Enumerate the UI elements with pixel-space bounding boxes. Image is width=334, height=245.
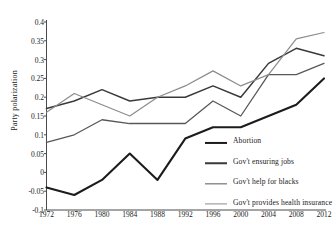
party-polarization-chart: Party polarization 0.40.350.30.250.20.15… [0,0,334,245]
series-line [47,63,325,142]
legend-swatch-govt-provides-health-insurance [205,200,227,209]
legend-label-govt-help-for-blacks: Gov't help for blacks [233,177,299,187]
legend-swatch-govt-help-for-blacks [205,179,227,188]
legend-item-govt-provides-health-insurance: Gov't provides health insurance [205,198,333,209]
legend-swatch-govt-ensuring-jobs [205,159,227,168]
legend-swatch-abortion [205,138,227,147]
legend-item-govt-help-for-blacks: Gov't help for blacks [205,177,333,188]
legend-label-govt-ensuring-jobs: Gov't ensuring jobs [233,157,294,167]
legend-label-abortion: Abortion [233,136,261,146]
legend-item-abortion: Abortion [205,136,333,147]
legend-item-govt-ensuring-jobs: Gov't ensuring jobs [205,157,333,168]
legend: Abortion Gov't ensuring jobs Gov't help … [205,136,333,218]
legend-label-govt-provides-health-insurance: Gov't provides health insurance [233,198,332,208]
